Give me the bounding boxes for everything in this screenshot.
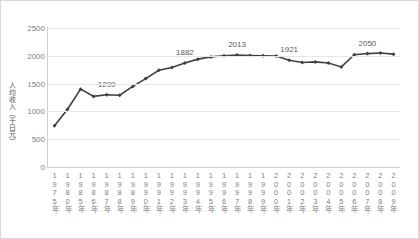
- x-tick-label: 1986年: [88, 171, 99, 213]
- x-tick-label: 2008年: [375, 171, 386, 213]
- x-tick-label: 1985年: [75, 171, 86, 213]
- chart-container: 人均收入（千日元） 25002000150010005000 129918822…: [0, 0, 419, 239]
- y-tick-label: 500: [5, 135, 45, 144]
- x-tick-label: 2003年: [310, 171, 321, 213]
- y-axis-tick-labels: 25002000150010005000: [1, 1, 45, 238]
- x-tick-label: 1997年: [232, 171, 243, 213]
- gridline: [48, 56, 400, 57]
- x-tick-label: 2004年: [323, 171, 334, 213]
- y-tick-label: 2000: [5, 51, 45, 60]
- data-label: 2013: [228, 40, 246, 49]
- gridline: [48, 167, 400, 168]
- x-tick-label: 1989年: [127, 171, 138, 213]
- y-tick-label: 1000: [5, 107, 45, 116]
- x-tick-label: 1991年: [153, 171, 164, 213]
- gridline: [48, 111, 400, 112]
- x-tick-label: 2001年: [284, 171, 295, 213]
- x-tick-label: 1992年: [166, 171, 177, 213]
- x-tick-label: 2007年: [362, 171, 373, 213]
- x-tick-label: 2005年: [336, 171, 347, 213]
- y-tick-label: 1500: [5, 79, 45, 88]
- x-tick-label: 1994年: [192, 171, 203, 213]
- x-tick-label: 1998年: [245, 171, 256, 213]
- x-tick-label: 1988年: [114, 171, 125, 213]
- x-tick-label: 2006年: [349, 171, 360, 213]
- data-point-labels: 12991882201319212050: [48, 28, 400, 167]
- x-tick-label: 2009年: [388, 171, 399, 213]
- x-tick-label: 1975年: [49, 171, 60, 213]
- x-tick-label: 1980年: [62, 171, 73, 213]
- y-tick-label: 0: [5, 163, 45, 172]
- x-axis-tick-labels: 1975年1980年1985年1986年1987年1988年1989年1990年…: [48, 171, 400, 231]
- x-tick-label: 1993年: [179, 171, 190, 213]
- x-tick-label: 1987年: [101, 171, 112, 213]
- gridline: [48, 28, 400, 29]
- x-tick-label: 2002年: [297, 171, 308, 213]
- x-tick-label: 1990年: [140, 171, 151, 213]
- x-tick-label: 1995年: [205, 171, 216, 213]
- data-label: 2050: [359, 39, 377, 48]
- gridline: [48, 139, 400, 140]
- x-tick-label: 1999年: [258, 171, 269, 213]
- x-tick-label: 2000年: [271, 171, 282, 213]
- gridline: [48, 84, 400, 85]
- x-tick-label: 1996年: [219, 171, 230, 213]
- y-tick-label: 2500: [5, 24, 45, 33]
- data-label: 1921: [280, 45, 298, 54]
